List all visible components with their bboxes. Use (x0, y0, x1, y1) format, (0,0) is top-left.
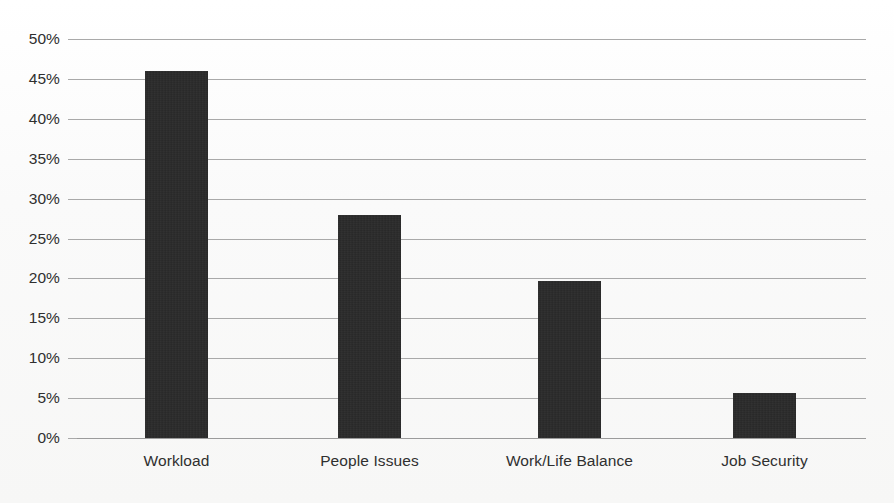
y-tick-mark (68, 438, 77, 439)
x-tick-label: Job Security (655, 452, 875, 470)
y-tick-mark (68, 199, 77, 200)
y-tick-label: 10% (0, 349, 60, 367)
y-tick-mark (68, 358, 77, 359)
x-tick-label: People Issues (260, 452, 480, 470)
y-tick-label: 15% (0, 309, 60, 327)
bar-job-security[interactable] (733, 393, 796, 438)
x-tick-label: Work/Life Balance (460, 452, 680, 470)
y-tick-mark (68, 39, 77, 40)
plot-area (77, 39, 866, 438)
y-tick-mark (68, 318, 77, 319)
y-tick-label: 50% (0, 30, 60, 48)
bar-chart: 0%5%10%15%20%25%30%35%40%45%50% Workload… (0, 0, 894, 503)
y-tick-label: 35% (0, 150, 60, 168)
y-tick-mark (68, 79, 77, 80)
y-tick-label: 20% (0, 269, 60, 287)
y-axis: 0%5%10%15%20%25%30%35%40%45%50% (0, 39, 66, 438)
bar-people-issues[interactable] (338, 215, 401, 438)
y-tick-label: 0% (0, 429, 60, 447)
bar-workload[interactable] (145, 71, 208, 438)
y-tick-label: 45% (0, 70, 60, 88)
y-tick-label: 40% (0, 110, 60, 128)
x-tick-label: Workload (67, 452, 287, 470)
bar-work-life-balance[interactable] (538, 281, 601, 438)
y-tick-label: 5% (0, 389, 60, 407)
y-tick-label: 25% (0, 230, 60, 248)
gridline-0pct (77, 438, 866, 439)
y-tick-mark (68, 239, 77, 240)
gridline-50pct (77, 39, 866, 40)
y-tick-mark (68, 398, 77, 399)
y-tick-mark (68, 278, 77, 279)
y-tick-mark (68, 119, 77, 120)
y-tick-label: 30% (0, 190, 60, 208)
y-tick-mark (68, 159, 77, 160)
